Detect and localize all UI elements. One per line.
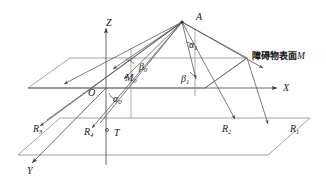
figure-root: Z X Y A O M0 T α0 β0 α1 β1 R1 R2 R3 R4 障… [0,0,326,180]
point-label-apex-a: A [196,12,202,22]
axis-label-y: Y [27,166,33,176]
ray-line-1b [247,58,268,124]
ray-1-subscript: 1 [296,128,299,135]
angle-label-alpha-one: α1 [189,40,198,50]
beta-one-subscript: 1 [186,78,189,85]
obstacle-surface-symbol: M [297,51,305,61]
ground-plane [18,118,310,155]
ray-4-subscript: 4 [90,131,93,138]
axis-label-x: X [283,83,289,93]
ray-3-subscript: 3 [39,128,42,135]
point-label-m-zero: M0 [125,73,137,83]
alpha-zero-subscript: 0 [118,98,121,105]
apex-point-marker [180,20,183,23]
ray-line-m0b [113,22,182,69]
geometry-diagram [0,0,326,180]
y-axis [32,88,106,163]
angle-label-beta-one: β1 [181,74,189,84]
axis-label-z: Z [106,18,112,28]
ray-line-m0c [64,22,182,84]
obstacle-plane-m [28,58,247,88]
point-label-t: T [114,128,120,138]
ray-label-2: R2 [222,124,231,134]
ray-label-1: R1 [290,124,299,134]
obstacle-surface-text: 障碍物表面 [252,51,297,61]
angle-label-beta-zero: β0 [139,62,147,72]
ray-2-subscript: 2 [228,128,231,135]
ray-line-4 [92,22,182,128]
alpha-one-subscript: 1 [194,44,197,51]
ray-label-4: R4 [84,127,93,137]
ray-line-m0 [124,22,182,79]
ray-label-3: R3 [33,124,42,134]
ray-bundle-from-apex [40,22,268,128]
angle-label-alpha-zero: α0 [113,94,122,104]
annotation-obstacle-surface: 障碍物表面M [252,52,305,62]
point-label-origin-o: O [88,88,95,98]
ray-line-1d [205,58,247,88]
m-zero-subscript: 0 [133,77,136,84]
beta-zero-subscript: 0 [144,66,147,73]
